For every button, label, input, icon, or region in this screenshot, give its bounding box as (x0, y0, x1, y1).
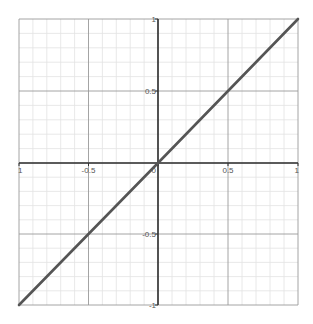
x-tick-label: 1 (18, 166, 23, 175)
x-tick-label: 0 (152, 166, 157, 175)
y-tick-label: 0.5 (145, 87, 157, 96)
x-tick-label: -0.5 (82, 166, 96, 175)
function-plot: 1-0.500.5110.5-0.5-1 (0, 0, 313, 324)
y-tick-label: 1 (152, 15, 157, 24)
y-tick-label: -0.5 (142, 230, 156, 239)
y-tick-label: -1 (149, 301, 157, 310)
x-tick-label: 1 (295, 166, 300, 175)
x-tick-label: 0.5 (222, 166, 234, 175)
